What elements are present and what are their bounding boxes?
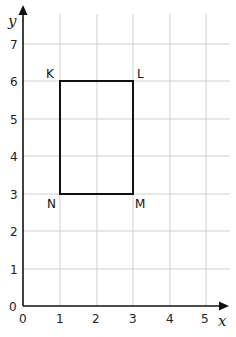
y-axis-arrow-icon <box>19 5 28 15</box>
vertex-label-n: N <box>47 197 56 211</box>
y-tick: 0 <box>9 300 17 314</box>
x-axis-arrow-icon <box>219 302 229 311</box>
y-tick: 2 <box>10 225 18 239</box>
y-tick: 7 <box>10 38 18 52</box>
vertex-label-k: K <box>46 67 55 81</box>
coordinate-grid-diagram: x y 0 1 2 3 4 5 0 1 2 3 4 5 6 7 K L M N <box>0 0 236 337</box>
y-tick: 3 <box>10 188 18 202</box>
x-tick: 5 <box>201 312 209 326</box>
y-tick: 1 <box>10 263 18 277</box>
y-tick-labels: 0 1 2 3 4 5 6 7 <box>9 38 18 314</box>
grid-lines <box>23 14 230 306</box>
x-axis-label: x <box>218 312 227 330</box>
x-tick: 1 <box>56 312 64 326</box>
axes <box>23 12 222 306</box>
vertex-label-m: M <box>135 197 145 211</box>
y-tick: 4 <box>10 150 18 164</box>
vertex-label-l: L <box>137 67 144 81</box>
y-axis-label: y <box>7 12 17 30</box>
x-tick: 0 <box>19 312 27 326</box>
y-tick: 5 <box>10 113 18 127</box>
x-tick-labels: 0 1 2 3 4 5 <box>19 312 209 326</box>
x-tick: 3 <box>129 312 137 326</box>
x-tick: 4 <box>166 312 174 326</box>
y-tick: 6 <box>10 75 18 89</box>
x-tick: 2 <box>92 312 100 326</box>
